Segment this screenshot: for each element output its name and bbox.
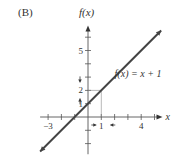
x-tick-label: 4	[139, 121, 144, 131]
labels: xf(x)−314521f(x) = x + 1	[43, 6, 170, 131]
x-arrow-right-head	[110, 123, 113, 127]
x-axis-arrowhead	[156, 115, 162, 120]
x-tick-label: 1	[99, 121, 104, 131]
series	[40, 31, 161, 152]
y-arrow-top-head	[78, 79, 82, 82]
function-plot: (B) xf(x)−314521f(x) = x + 1	[0, 0, 189, 159]
equation-label: f(x) = x + 1	[115, 68, 162, 80]
x-arrow-left-head	[93, 123, 96, 127]
y-axis-arrowhead	[86, 26, 91, 32]
y-tick-label: 2	[79, 85, 84, 95]
y-tick-label: 5	[79, 46, 84, 56]
x-axis-label: x	[164, 111, 170, 122]
x-tick-label: −3	[43, 121, 53, 131]
series-line	[40, 31, 161, 152]
panel-label: (B)	[18, 6, 33, 19]
y-tick-label: 1	[79, 99, 84, 109]
y-axis-label: f(x)	[79, 6, 95, 19]
indicator-arrows	[78, 76, 115, 126]
